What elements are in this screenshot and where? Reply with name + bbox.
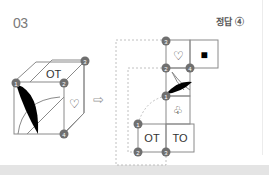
net-ot-text: OT xyxy=(144,132,160,144)
net-square-icon: ■ xyxy=(200,48,207,62)
net-heart-icon: ♡ xyxy=(173,49,184,63)
cube-top-text: OT xyxy=(46,68,62,80)
net-dashed-guides xyxy=(116,40,166,165)
net-club-icon: ♧ xyxy=(173,104,183,116)
arrow-right-icon: ⇨ xyxy=(93,92,104,107)
net-to-text: TO xyxy=(172,132,188,144)
heart-icon: ♡ xyxy=(69,97,80,111)
diagram: OT ♡ 1 2 3 4 ⇨ ♡ ■ ♧ OT TO 3 2 xyxy=(0,0,269,175)
